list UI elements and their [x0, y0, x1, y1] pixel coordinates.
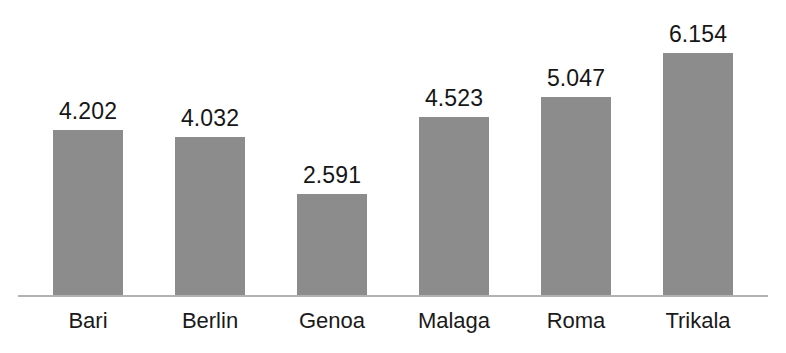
category-label: Genoa: [275, 304, 389, 338]
category-axis-labels: BariBerlinGenoaMalagaRomaTrikala: [0, 304, 786, 346]
bar-value-label: 4.523: [397, 85, 511, 111]
category-label: Trikala: [641, 304, 755, 338]
bar: [541, 97, 611, 297]
bar: [663, 53, 733, 297]
bar-value-label: 4.032: [153, 105, 267, 131]
category-label: Malaga: [397, 304, 511, 338]
bar-group: 2.591: [297, 0, 367, 297]
bar-chart: 4.2024.0322.5914.5235.0476.154 BariBerli…: [0, 0, 786, 353]
bar: [297, 194, 367, 297]
x-axis-line: [18, 295, 768, 297]
bar-group: 5.047: [541, 0, 611, 297]
category-label: Roma: [519, 304, 633, 338]
bar-value-label: 4.202: [31, 98, 145, 124]
bar-value-label: 5.047: [519, 65, 633, 91]
bar: [53, 130, 123, 297]
category-label: Bari: [31, 304, 145, 338]
bar-group: 4.202: [53, 0, 123, 297]
bar-value-label: 2.591: [275, 162, 389, 188]
bar: [419, 117, 489, 297]
plot-area: 4.2024.0322.5914.5235.0476.154: [0, 0, 786, 297]
bars-layer: 4.2024.0322.5914.5235.0476.154: [0, 0, 786, 297]
bar-value-label: 6.154: [641, 21, 755, 47]
bar-group: 4.523: [419, 0, 489, 297]
bar-group: 4.032: [175, 0, 245, 297]
category-label: Berlin: [153, 304, 267, 338]
bar: [175, 137, 245, 297]
bar-group: 6.154: [663, 0, 733, 297]
